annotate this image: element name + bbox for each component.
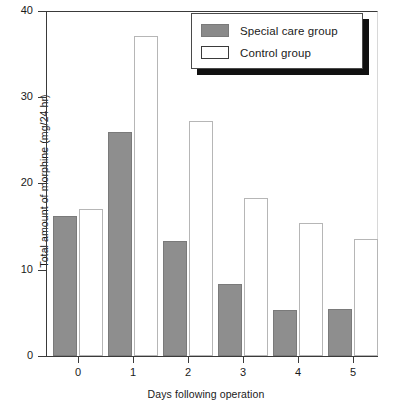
bar-special-care-day-1: [108, 132, 132, 356]
x-axis-line: [46, 356, 378, 357]
bar-special-care-day-3: [218, 284, 242, 356]
y-tick-40: [38, 11, 46, 12]
chart-legend: Special care group Control group: [191, 13, 363, 69]
bar-special-care-day-4: [273, 310, 297, 356]
y-tick-label-30: 30: [0, 90, 33, 102]
bar-special-care-day-0: [53, 216, 77, 356]
x-tick-5: [353, 356, 354, 363]
bar-special-care-day-2: [163, 241, 187, 356]
x-tick-label-4: 4: [286, 366, 310, 378]
x-tick-label-2: 2: [176, 366, 200, 378]
y-tick-20: [38, 183, 46, 184]
bar-special-care-day-5: [328, 309, 352, 356]
bar-control-day-4: [299, 223, 323, 356]
x-tick-2: [188, 356, 189, 363]
legend-entry-special-care: Special care group: [201, 22, 338, 39]
x-tick-label-0: 0: [66, 366, 90, 378]
legend-entry-control: Control group: [201, 44, 311, 61]
bar-control-day-2: [189, 121, 213, 356]
y-tick-label-10: 10: [0, 263, 33, 275]
x-tick-label-3: 3: [231, 366, 255, 378]
y-tick-label-20: 20: [0, 176, 33, 188]
y-tick-10: [38, 270, 46, 271]
x-tick-label-5: 5: [341, 366, 365, 378]
bar-control-day-0: [79, 209, 103, 356]
y-tick-30: [38, 97, 46, 98]
x-tick-0: [78, 356, 79, 363]
legend-label-control: Control group: [240, 47, 311, 59]
x-tick-label-1: 1: [121, 366, 145, 378]
x-axis-label: Days following operation: [32, 388, 380, 400]
bar-control-day-5: [354, 239, 378, 356]
y-tick-0: [38, 356, 46, 357]
x-tick-1: [133, 356, 134, 363]
x-tick-4: [298, 356, 299, 363]
legend-label-special-care: Special care group: [240, 25, 338, 37]
legend-swatch-control-icon: [201, 46, 229, 59]
bar-control-day-1: [134, 36, 158, 356]
y-tick-label-0: 0: [0, 349, 33, 361]
x-tick-3: [243, 356, 244, 363]
bar-chart-figure: Total amount of morphine (mg/24 hr) Days…: [0, 0, 394, 410]
bar-control-day-3: [244, 198, 268, 356]
y-tick-label-40: 40: [0, 4, 33, 16]
legend-swatch-special-care-icon: [201, 24, 229, 37]
